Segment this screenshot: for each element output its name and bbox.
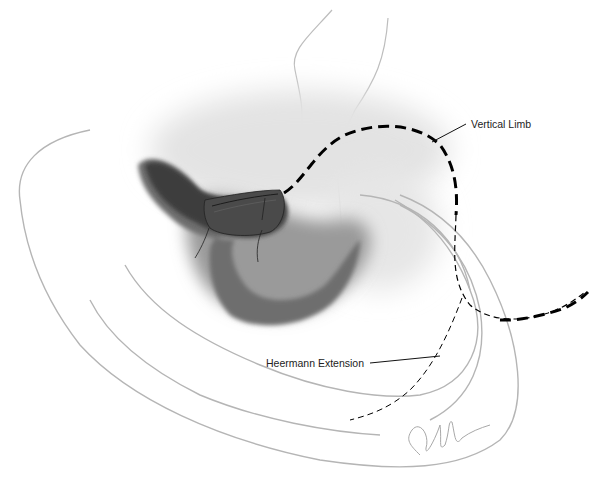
ear-illustration <box>0 0 596 480</box>
heermann-extension-leader <box>370 356 440 363</box>
illustration-canvas: Vertical Limb Heermann Extension <box>0 0 596 480</box>
heermann-extension-label: Heermann Extension <box>266 357 364 369</box>
vertical-limb-label: Vertical Limb <box>471 118 531 130</box>
artist-signature <box>409 422 490 455</box>
